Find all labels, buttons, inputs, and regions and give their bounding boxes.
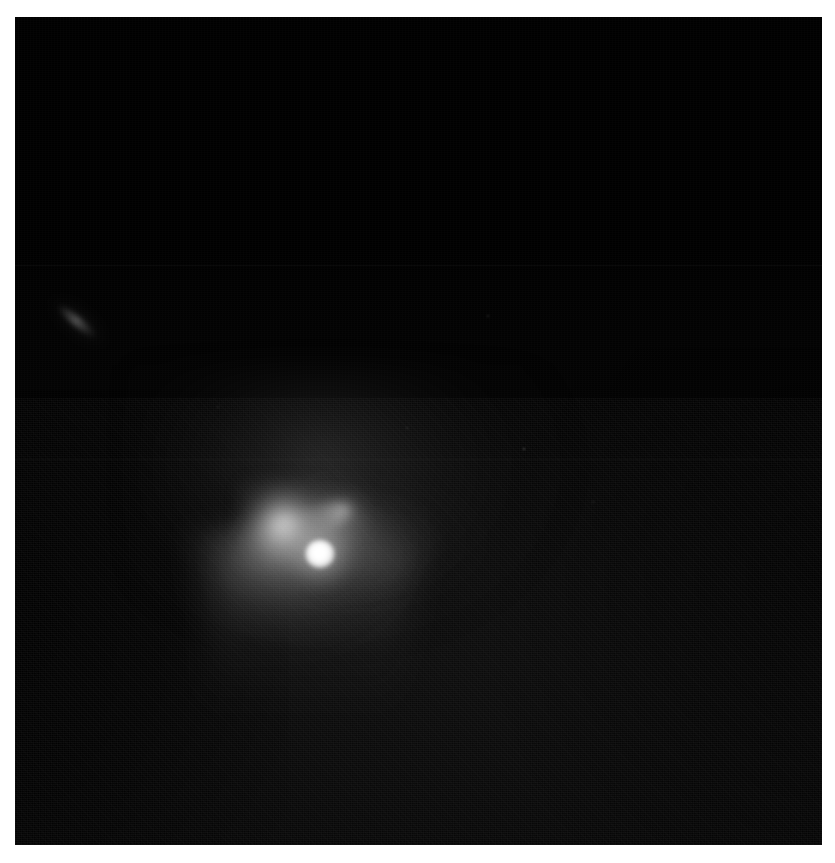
astronomical-image-plate bbox=[15, 17, 822, 845]
image-viewport bbox=[0, 0, 835, 863]
detector-noise-lower bbox=[15, 398, 822, 845]
